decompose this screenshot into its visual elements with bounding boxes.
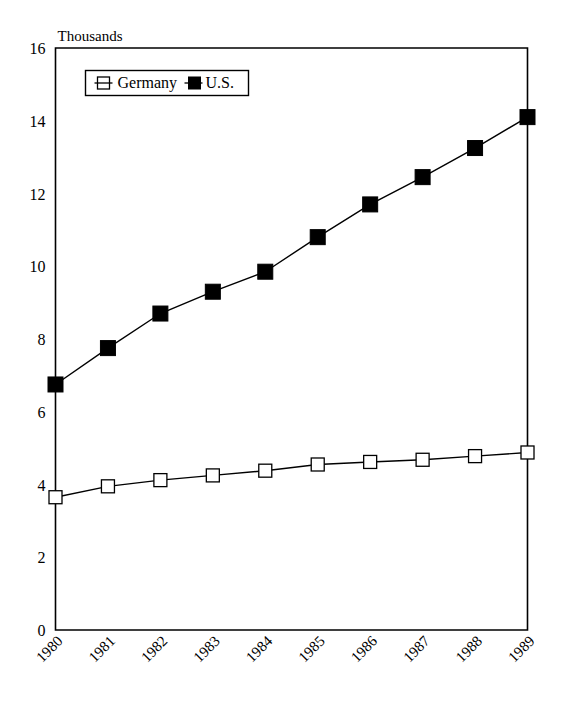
data-point-marker: [49, 491, 62, 504]
y-tick-label: 8: [38, 331, 46, 348]
series-line: [56, 452, 528, 497]
y-tick-label: 10: [30, 258, 46, 275]
data-point-marker: [153, 306, 168, 321]
y-tick-label: 14: [30, 113, 46, 130]
x-tick-label: 1989: [505, 633, 538, 666]
x-tick-label: 1986: [348, 632, 381, 665]
y-tick-label: 12: [30, 186, 46, 203]
data-point-marker: [310, 230, 325, 245]
legend-entry-germany: Germany: [95, 74, 178, 92]
data-point-marker: [415, 170, 430, 185]
y-tick-label: 0: [38, 622, 46, 639]
legend-marker-filled-square-icon: [189, 77, 201, 89]
data-point-marker: [205, 284, 220, 299]
plot-frame: [56, 48, 528, 630]
data-point-marker: [258, 264, 273, 279]
data-point-marker: [100, 341, 115, 356]
y-axis-title: Thousands: [58, 28, 123, 44]
line-chart: Thousands0246810121416198019811982198319…: [0, 0, 561, 718]
y-tick-label: 6: [38, 404, 46, 421]
data-point-marker: [521, 446, 534, 459]
x-tick-label: 1981: [86, 633, 119, 666]
x-tick-label: 1982: [138, 633, 171, 666]
legend-label-us: U.S.: [206, 74, 234, 91]
y-tick-label: 2: [38, 549, 46, 566]
data-point-marker: [311, 458, 324, 471]
data-point-marker: [206, 469, 219, 482]
data-point-marker: [364, 455, 377, 468]
x-tick-label: 1988: [453, 633, 486, 666]
series-germany: [49, 446, 534, 504]
x-tick-label: 1984: [243, 632, 276, 665]
legend: GermanyU.S.: [86, 71, 249, 96]
data-point-marker: [363, 197, 378, 212]
x-tick-label: 1985: [295, 633, 328, 666]
y-tick-label: 16: [30, 40, 46, 57]
x-tick-label: 1983: [190, 633, 223, 666]
data-point-marker: [259, 464, 272, 477]
series-u-s: [48, 110, 535, 392]
data-point-marker: [468, 141, 483, 156]
data-point-marker: [48, 377, 63, 392]
data-point-marker: [154, 474, 167, 487]
series-line: [56, 117, 528, 384]
data-point-marker: [101, 480, 114, 493]
chart-container: Thousands0246810121416198019811982198319…: [0, 0, 561, 718]
x-axis-ticks: 1980198119821983198419851986198719881989: [33, 632, 538, 665]
legend-label-germany: Germany: [118, 74, 178, 92]
x-tick-label: 1987: [400, 632, 433, 665]
data-point-marker: [469, 450, 482, 463]
data-point-marker: [520, 110, 535, 125]
y-tick-label: 4: [38, 477, 46, 494]
data-point-marker: [416, 453, 429, 466]
y-axis-ticks: 0246810121416: [30, 40, 46, 639]
